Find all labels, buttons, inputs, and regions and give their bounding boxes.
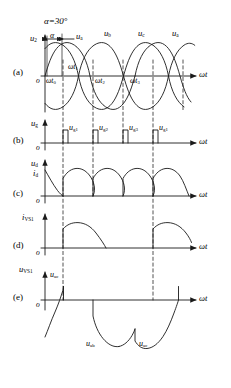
panel-d-thyristor-current [63, 223, 192, 248]
origin-label-b: o [36, 144, 40, 152]
panel-tag-b: (b) [13, 136, 24, 145]
panel-c-output-waveform [45, 168, 189, 196]
y-axis-label-d-sub2: 1 [31, 216, 34, 222]
time-marker-wt1: ωt1 [68, 63, 78, 71]
origin-label-c: o [36, 197, 40, 205]
pulse-label-ug1: ug1 [69, 124, 78, 133]
curve-label-uac-2-sub: ac [143, 343, 147, 348]
x-axis-label-a: ωt [199, 70, 207, 79]
y-axis-label-c-id: id [33, 169, 38, 178]
panel-d-axes [41, 214, 196, 255]
y-axis-label-d: iVS1 [22, 213, 34, 222]
pulse-label-ug1-b: ug1 [159, 124, 168, 133]
pulse-label-ug3: ug3 [129, 124, 138, 133]
pulse-label-ug3-sub: g3 [133, 127, 138, 132]
curve-label-uc: uc [138, 29, 145, 38]
x-axis-label-e: ωt [199, 294, 207, 303]
alpha-annotation: α=30° [44, 17, 67, 26]
origin-label-e: o [36, 301, 40, 309]
time-marker-wt2: ωt2 [95, 77, 105, 85]
y-axis-label-a-sub: 2 [34, 37, 37, 43]
curve-label-uac-1-sub: ac [54, 274, 58, 279]
panel-e-axes [41, 272, 196, 310]
time-marker-wt2-sub: 2 [102, 80, 104, 85]
x-axis-label-c: ωt [199, 190, 207, 199]
time-marker-wt3: ωt3 [130, 77, 140, 85]
curve-label-uac-1: uac [50, 271, 58, 280]
y-axis-label-b-sub: g [35, 122, 38, 128]
panel-tag-e: (e) [13, 293, 23, 302]
panel-e-thyristor-voltage [45, 287, 179, 349]
pulse-label-ug1-b-sub: g1 [163, 127, 168, 132]
time-marker-wt3-sub: 3 [137, 80, 139, 85]
x-axis-label-d: ωt [199, 242, 207, 251]
x-axis-label-b: ωt [199, 137, 207, 146]
panel-tag-c: (c) [13, 189, 23, 198]
origin-label-a: o [36, 77, 40, 85]
y-axis-label-e-sub2: 1 [30, 268, 33, 274]
time-marker-wt0: ωt0 [46, 77, 56, 85]
panel-tag-d: (d) [13, 241, 24, 250]
panel-b-axes [41, 120, 196, 150]
alpha-symbol: α [50, 32, 54, 40]
origin-label-d: o [36, 249, 40, 257]
y-axis-label-a: u2 [30, 34, 37, 43]
curve-label-uc-sub: c [142, 32, 144, 38]
curve-label-ub-sub: b [108, 32, 111, 38]
rectifier-waveform-figure [0, 0, 231, 388]
pulse-label-ug2-sub: g2 [103, 127, 108, 132]
y-axis-label-e-sub: VS [23, 268, 30, 274]
y-axis-label-e: uVS1 [19, 265, 33, 274]
time-marker-wt1-sub: 1 [75, 66, 77, 71]
curve-label-ua-1-sub: a [80, 35, 82, 41]
y-axis-label-c-id-sub: d [35, 172, 38, 178]
y-axis-label-c-ud: ud [31, 159, 38, 168]
pulse-label-ug2: ug2 [99, 124, 108, 133]
y-axis-label-c-ud-sub: d [35, 162, 38, 168]
curve-label-uab-sub: ab [90, 343, 95, 348]
pulse-label-ug1-sub: g1 [73, 127, 78, 132]
curve-label-ua-2-sub: a [176, 32, 178, 38]
time-marker-wt0-sub: 0 [53, 80, 55, 85]
y-axis-label-b: ug [31, 119, 38, 128]
curve-label-uab: uab [86, 340, 95, 349]
curve-label-ua-2: ua [172, 29, 179, 38]
panel-c-axes [41, 160, 196, 203]
curve-label-ub: ub [104, 29, 111, 38]
curve-label-uac-2: uac [139, 340, 147, 349]
curve-label-ua-1: ua [76, 32, 83, 41]
panel-tag-a: (a) [13, 68, 23, 77]
